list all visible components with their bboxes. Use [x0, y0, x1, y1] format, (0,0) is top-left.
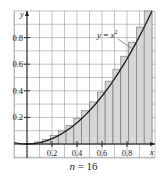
- x-tick-label: 0.6: [97, 148, 108, 158]
- y-tick-label: 0.8: [12, 33, 23, 43]
- function-annotation: y = x2: [96, 29, 118, 40]
- riemann-bar: [129, 42, 137, 144]
- riemann-bar: [144, 11, 152, 144]
- y-tick-label: 0.6: [12, 59, 23, 69]
- x-tick-label: 0.4: [72, 148, 83, 158]
- x-tick-label: 0.2: [47, 148, 58, 158]
- y-tick-label: 0.4: [12, 86, 23, 96]
- y-axis-arrow-icon: [25, 11, 29, 16]
- y-axis-label: y: [19, 9, 24, 19]
- caption: n = 16: [0, 160, 167, 172]
- x-axis-label: x: [149, 147, 154, 157]
- caption-value: = 16: [75, 160, 98, 172]
- riemann-bar: [82, 111, 90, 144]
- riemann-bar: [136, 27, 144, 144]
- riemann-bar: [121, 56, 129, 144]
- riemann-bar: [90, 102, 98, 144]
- x-axis-arrow-icon: [150, 142, 155, 146]
- x-tick-label: 0.8: [122, 148, 133, 158]
- y-tick-label: 0.2: [12, 112, 23, 122]
- riemann-sum-chart: x y 0.20.40.60.80.20.40.60.8 y = x2: [0, 0, 167, 178]
